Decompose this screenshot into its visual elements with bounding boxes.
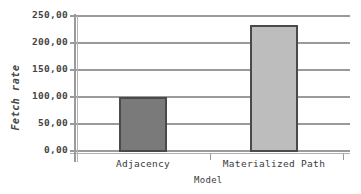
y-axis-line-sketch — [77, 16, 78, 162]
y-axis-title: Fetch rate — [10, 64, 21, 130]
x-axis-title: Model — [194, 175, 223, 185]
gridline-100 — [70, 96, 350, 98]
ytick-0: 0,00 — [0, 144, 68, 155]
gridline-50 — [70, 123, 350, 125]
x-tick-1 — [210, 154, 211, 160]
ytick-250: 250,00 — [0, 9, 68, 20]
gridline-250 — [70, 15, 350, 17]
bar-adjacency — [119, 97, 167, 152]
gridline-150 — [70, 69, 350, 71]
y-axis-line — [74, 14, 76, 162]
category-label-materialized-path: Materialized Path — [214, 158, 334, 169]
ytick-200: 200,00 — [0, 36, 68, 47]
x-tick-2 — [343, 154, 344, 160]
category-label-adjacency: Adjacency — [103, 158, 183, 169]
bar-materialized-path — [250, 25, 298, 152]
gridline-0 — [70, 150, 350, 152]
gridline-200 — [70, 42, 350, 44]
